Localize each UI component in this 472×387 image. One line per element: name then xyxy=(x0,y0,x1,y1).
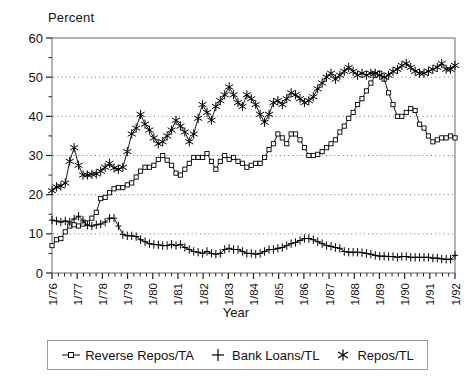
data-point-marker xyxy=(200,155,204,159)
data-point-marker xyxy=(183,167,187,171)
x-tick-label: 1/76 xyxy=(47,283,59,305)
x-tick-label: 1/87 xyxy=(324,283,336,305)
gridlines xyxy=(53,77,454,234)
y-tick-label: 40 xyxy=(29,109,43,124)
x-tick-label: 1/83 xyxy=(223,283,235,305)
data-point-marker xyxy=(178,173,182,177)
data-point-marker xyxy=(245,165,249,169)
data-point-marker xyxy=(386,91,390,95)
asterisk-marker-icon xyxy=(333,348,353,362)
data-point-marker xyxy=(112,187,116,191)
data-point-marker xyxy=(444,136,448,140)
x-tick-label: 1/85 xyxy=(273,283,285,305)
y-tick-label: 60 xyxy=(29,31,43,46)
legend-label-reverse-repos: Reverse Repos/TA xyxy=(85,348,194,363)
data-point-marker xyxy=(280,136,284,140)
x-tick-label: 1/81 xyxy=(172,283,184,305)
data-point-marker xyxy=(417,122,421,126)
data-point-marker xyxy=(218,159,222,163)
data-point-marker xyxy=(320,149,324,153)
data-point-marker xyxy=(227,157,231,161)
data-point-marker xyxy=(254,161,258,165)
legend-label-repos: Repos/TL xyxy=(357,348,413,363)
chart-figure: Percent 0102030405060 1/761/771/781/791/… xyxy=(0,0,472,387)
data-point-marker xyxy=(395,114,399,118)
data-point-marker xyxy=(267,148,271,152)
data-point-marker xyxy=(174,171,178,175)
data-point-marker xyxy=(165,158,169,162)
data-point-marker xyxy=(271,142,275,146)
x-tick-label: 1/86 xyxy=(298,283,310,305)
x-tick-label: 1/90 xyxy=(399,283,411,305)
x-tick-label: 1/89 xyxy=(374,283,386,305)
data-point-marker xyxy=(347,116,351,120)
data-point-marker xyxy=(90,216,94,220)
data-point-marker xyxy=(413,108,417,112)
legend-item-reverse-repos: Reverse Repos/TA xyxy=(61,348,194,363)
data-point-marker xyxy=(240,161,244,165)
data-point-marker xyxy=(94,210,98,214)
x-tick-label: 1/84 xyxy=(248,282,260,305)
y-axis-ticks: 0102030405060 xyxy=(29,31,52,281)
x-axis-label: Year xyxy=(0,305,472,320)
data-point-marker xyxy=(125,183,129,187)
data-point-marker xyxy=(187,161,191,165)
data-point-marker xyxy=(369,81,373,85)
plus-marker-icon xyxy=(208,348,228,362)
data-point-marker xyxy=(333,138,337,142)
data-point-marker xyxy=(152,163,156,167)
x-tick-label: 1/79 xyxy=(122,283,134,305)
data-point-marker xyxy=(342,124,346,128)
data-point-marker xyxy=(54,238,58,242)
data-point-marker xyxy=(249,163,253,167)
data-point-marker xyxy=(431,140,435,144)
data-point-marker xyxy=(409,106,413,110)
y-axis-label: Percent xyxy=(48,10,94,25)
legend-item-bank-loans: Bank Loans/TL xyxy=(208,348,319,363)
data-point-marker xyxy=(209,159,213,163)
data-point-marker xyxy=(103,195,107,199)
y-tick-label: 0 xyxy=(36,266,43,281)
data-point-marker xyxy=(316,152,320,156)
plot-area: 0102030405060 1/761/771/781/791/801/811/… xyxy=(0,0,472,340)
data-point-marker xyxy=(50,243,54,247)
data-point-marker xyxy=(223,153,227,157)
y-tick-label: 30 xyxy=(29,148,43,163)
data-point-marker xyxy=(391,102,395,106)
series-3 xyxy=(48,59,459,195)
chart-legend: Reverse Repos/TA Bank Loans/TL xyxy=(47,340,428,370)
data-point-marker xyxy=(404,110,408,114)
data-point-marker xyxy=(351,110,355,114)
data-point-marker xyxy=(258,161,262,165)
data-point-marker xyxy=(192,155,196,159)
data-point-marker xyxy=(276,132,280,136)
data-point-marker xyxy=(448,134,452,138)
data-point-marker xyxy=(307,153,311,157)
data-point-marker xyxy=(262,155,266,159)
data-point-marker xyxy=(138,169,142,173)
x-tick-label: 1/92 xyxy=(450,283,462,305)
square-marker-icon xyxy=(61,348,81,362)
data-point-marker xyxy=(143,165,147,169)
data-point-marker xyxy=(289,132,293,136)
x-tick-label: 1/80 xyxy=(147,283,159,305)
data-point-marker xyxy=(285,142,289,146)
data-point-marker xyxy=(76,224,80,228)
data-point-marker xyxy=(161,153,165,157)
legend-label-bank-loans: Bank Loans/TL xyxy=(232,348,319,363)
data-point-marker xyxy=(329,142,333,146)
data-point-marker xyxy=(311,153,315,157)
data-point-marker xyxy=(107,191,111,195)
data-point-marker xyxy=(130,181,134,185)
series-line xyxy=(52,73,455,245)
x-tick-label: 1/77 xyxy=(72,283,84,305)
data-point-marker xyxy=(169,163,173,167)
data-point-marker xyxy=(147,165,151,169)
data-point-marker xyxy=(116,186,120,190)
data-point-marker xyxy=(72,223,76,227)
data-point-marker xyxy=(134,175,138,179)
x-axis-ticks: 1/761/771/781/791/801/811/821/831/841/85… xyxy=(47,273,462,305)
series-line xyxy=(52,216,455,259)
y-tick-label: 20 xyxy=(29,187,43,202)
series-2 xyxy=(49,212,458,263)
